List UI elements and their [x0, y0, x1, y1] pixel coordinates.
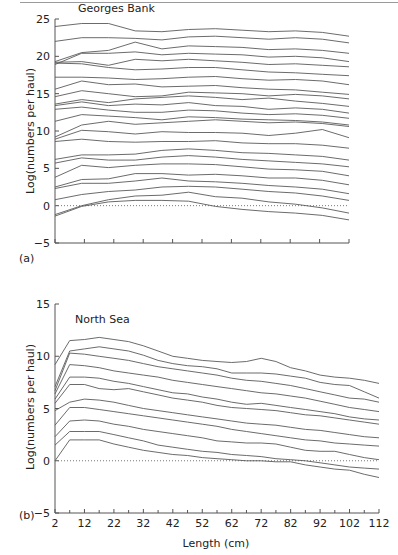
y-tick-label: 10	[36, 125, 50, 138]
series-line	[55, 432, 379, 470]
series-line	[55, 337, 379, 383]
series-line	[55, 200, 349, 220]
panel-a-title: Georges Bank	[78, 2, 156, 15]
x-tick-label: 2	[52, 517, 59, 530]
series-line	[55, 24, 349, 37]
series-line	[55, 52, 349, 65]
series-line	[55, 63, 349, 76]
y-tick-label: 15	[36, 88, 50, 101]
series-line	[55, 59, 349, 67]
series-line	[55, 91, 349, 99]
series-line	[55, 164, 349, 177]
x-tick-label: 92	[313, 517, 327, 530]
y-tick-label: 20	[36, 50, 50, 63]
panel-b-north-sea: North Sea −50510152122232425262728292102…	[19, 298, 390, 550]
series-line	[55, 115, 349, 125]
y-tick-label: 10	[36, 350, 50, 363]
x-tick-label: 22	[107, 517, 121, 530]
series-line	[55, 353, 379, 402]
y-tick-label: 5	[43, 403, 50, 416]
panel-b-x-label: Length (cm)	[183, 537, 250, 550]
panel-a-y-label: Log(numbers per haul)	[24, 68, 37, 194]
panel-a-axes: −50510152025	[34, 13, 349, 250]
series-line	[55, 174, 349, 187]
y-tick-label: −5	[34, 237, 50, 250]
panel-b-y-label: Log(numbers per haul)	[24, 344, 37, 470]
series-line	[55, 440, 379, 478]
x-tick-label: 42	[166, 517, 180, 530]
y-tick-label: 15	[36, 298, 50, 311]
series-line	[55, 102, 349, 113]
panel-b-series-lines	[55, 337, 379, 477]
series-line	[55, 385, 379, 425]
x-tick-label: 102	[339, 517, 360, 530]
panel-b-label: (b)	[19, 509, 35, 522]
series-line	[55, 36, 349, 43]
x-tick-label: 12	[77, 517, 91, 530]
x-tick-label: 62	[225, 517, 239, 530]
series-line	[55, 139, 349, 148]
y-tick-label: −5	[34, 507, 50, 520]
panel-a-label: (a)	[19, 252, 34, 265]
series-line	[55, 130, 349, 140]
y-tick-label: 0	[43, 455, 50, 468]
series-line	[55, 178, 349, 194]
x-tick-label: 82	[284, 517, 298, 530]
x-tick-label: 72	[254, 517, 268, 530]
x-tick-label: 112	[369, 517, 390, 530]
y-tick-label: 25	[36, 13, 50, 26]
series-line	[55, 186, 349, 200]
panel-b-title: North Sea	[75, 313, 130, 326]
x-tick-label: 32	[136, 517, 150, 530]
y-tick-label: 0	[43, 200, 50, 213]
series-line	[55, 96, 349, 107]
series-line	[55, 347, 379, 398]
series-line	[55, 365, 379, 412]
series-line	[55, 42, 349, 62]
y-tick-label: 5	[43, 162, 50, 175]
figure-canvas: Georges Bank −50510152025 Log(numbers pe…	[0, 0, 398, 555]
panel-a-georges-bank: Georges Bank −50510152025 Log(numbers pe…	[19, 2, 349, 265]
series-line	[55, 149, 349, 160]
series-line	[55, 120, 349, 137]
panel-a-series-lines	[55, 24, 349, 220]
x-tick-label: 52	[195, 517, 209, 530]
series-line	[55, 156, 349, 167]
